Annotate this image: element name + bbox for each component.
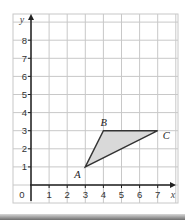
x-tick-label: 1 xyxy=(46,189,51,200)
x-axis-label: x xyxy=(170,189,176,200)
point-label-b: B xyxy=(100,117,107,128)
y-tick-label: 6 xyxy=(22,71,27,82)
y-tick-label: 8 xyxy=(22,35,27,46)
grid-plot: 1234567801234567yxABC xyxy=(0,0,185,220)
x-tick-label: 2 xyxy=(65,189,70,200)
y-tick-label: 4 xyxy=(22,107,27,118)
x-tick-label: 7 xyxy=(155,189,160,200)
x-tick-label: 3 xyxy=(83,189,88,200)
x-tick-label: 6 xyxy=(137,189,142,200)
y-axis-label: y xyxy=(19,14,25,25)
y-tick-label: 1 xyxy=(22,161,27,172)
bottom-edge-bar xyxy=(0,214,185,220)
x-tick-label: 5 xyxy=(119,189,124,200)
x-tick-label: 4 xyxy=(101,189,106,200)
y-tick-label: 7 xyxy=(22,53,27,64)
point-label-c: C xyxy=(163,130,171,141)
grid-frame xyxy=(13,14,178,203)
x-tick-label: 0 xyxy=(19,189,24,200)
y-tick-label: 5 xyxy=(22,89,27,100)
coordinate-diagram: 1234567801234567yxABC xyxy=(0,0,185,220)
y-tick-label: 3 xyxy=(22,125,27,136)
point-label-a: A xyxy=(73,169,81,180)
y-tick-label: 2 xyxy=(22,143,27,154)
